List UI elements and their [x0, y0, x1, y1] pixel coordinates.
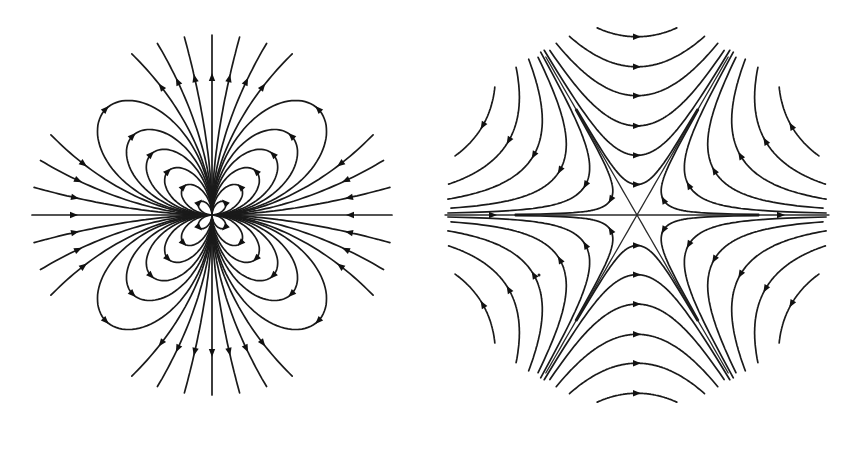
hyperbolic-trajectory [451, 57, 566, 208]
hyperbolic-trajectory [732, 231, 826, 371]
hyperbolic-trajectory [556, 334, 718, 386]
arrowhead-icon [179, 184, 187, 192]
petal-loop [98, 101, 213, 216]
hyperbolic-trajectory [708, 222, 823, 373]
hyperbolic-trajectory [779, 274, 819, 343]
arrowhead-icon [583, 180, 590, 189]
arrowhead-icon [633, 360, 641, 366]
hyperbolic-trajectory [448, 231, 542, 371]
hyperbolic-trajectory [577, 109, 698, 184]
hyperbolic-trajectory [779, 87, 819, 156]
arrowhead-icon [558, 256, 565, 265]
hyperbolic-trajectory [556, 43, 718, 95]
arrowhead-icon [237, 184, 245, 192]
arrowhead-icon [633, 242, 641, 248]
arrowhead-icon [633, 331, 641, 337]
arrowhead-icon [633, 301, 641, 307]
arrowhead-icon [342, 248, 351, 254]
hyperbolic-trajectory [732, 59, 826, 199]
arrowhead-icon [481, 301, 488, 310]
arrowhead-icon [194, 223, 202, 231]
arrowhead-icon [179, 238, 187, 246]
arrowhead-icon [777, 212, 785, 218]
arrowhead-icon [163, 254, 171, 262]
arrowhead-icon [176, 344, 182, 353]
hyperbolic-trajectory [550, 304, 724, 379]
arrowhead-icon [532, 150, 539, 159]
arrowhead-icon [194, 199, 202, 207]
arrowhead-icon [73, 248, 82, 254]
arrowhead-icon [583, 241, 590, 250]
hyperbolic-trajectory [577, 246, 698, 321]
arrowhead-icon [163, 168, 171, 176]
arrowhead-icon [633, 152, 641, 158]
arrowhead-icon [687, 240, 694, 249]
hyperbolic-trajectory [708, 57, 823, 208]
arrowhead-icon [222, 223, 230, 231]
arrowhead-icon [712, 167, 719, 176]
arrowhead-icon [507, 286, 514, 295]
arrowhead-icon [609, 227, 616, 236]
arrowhead-icon [209, 73, 215, 81]
hyperbolic-trajectory [570, 363, 705, 393]
arrowhead-icon [763, 137, 770, 146]
arrowhead-icon [489, 212, 497, 218]
arrowhead-icon [789, 122, 796, 131]
arrowhead-icon [242, 344, 248, 353]
arrowhead-icon [237, 238, 245, 246]
arrowhead-icon [609, 195, 616, 204]
arrowhead-icon [209, 349, 215, 357]
arrowhead-icon [242, 78, 248, 87]
left-flower-portrait [32, 35, 392, 395]
arrowhead-icon [70, 212, 78, 218]
arrowhead-icon [558, 165, 565, 174]
arrowhead-icon [738, 152, 745, 161]
arrowhead-icon [633, 181, 641, 187]
arrowhead-icon [481, 121, 488, 130]
arrowhead-icon [633, 390, 641, 396]
arrowhead-icon [270, 271, 278, 279]
arrowhead-icon [633, 271, 641, 277]
hyperbolic-trajectory [455, 87, 495, 156]
hyperbolic-trajectory [451, 222, 566, 373]
arrowhead-icon [789, 299, 796, 308]
arrowhead-icon [507, 136, 514, 145]
petal-loop [212, 215, 327, 330]
arrowhead-icon [532, 271, 539, 280]
arrowhead-icon [253, 168, 261, 176]
petal-loop [212, 101, 327, 216]
petal-loop [98, 215, 213, 330]
hyperbolic-trajectory [455, 274, 495, 343]
arrowhead-icon [738, 270, 745, 279]
arrowhead-icon [222, 199, 230, 207]
hyperbolic-trajectory [570, 36, 705, 66]
arrowhead-icon [146, 151, 154, 159]
arrowhead-icon [270, 151, 278, 159]
arrowhead-icon [346, 212, 354, 218]
arrowhead-icon [253, 254, 261, 262]
arrowhead-icon [146, 271, 154, 279]
arrowhead-icon [342, 176, 351, 182]
right-monkey-saddle-portrait [445, 28, 829, 402]
arrowhead-icon [633, 123, 641, 129]
arrowhead-icon [176, 78, 182, 87]
arrowhead-icon [687, 182, 694, 191]
arrowhead-icon [633, 92, 641, 98]
hyperbolic-trajectory [550, 51, 724, 126]
print-speck [538, 274, 541, 277]
hyperbolic-trajectory [448, 59, 542, 199]
phase-portrait-figure [0, 0, 859, 454]
arrowhead-icon [633, 34, 641, 40]
arrowhead-icon [73, 176, 82, 182]
arrowhead-icon [763, 284, 770, 293]
arrowhead-icon [633, 64, 641, 70]
arrowhead-icon [712, 254, 719, 263]
